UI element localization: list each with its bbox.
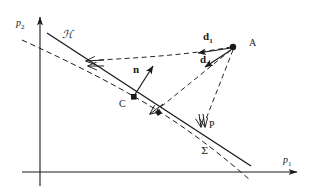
d1-dashed-segment (98, 47, 231, 60)
x-axis-label: p1 (283, 155, 292, 168)
ap-dashed-segment (206, 50, 233, 119)
points-group (131, 44, 236, 116)
d1-vector-label: d1 (203, 31, 213, 45)
y-axis-label: p2 (16, 18, 25, 31)
point-A-label: A (249, 38, 256, 48)
figure-canvas (0, 0, 316, 196)
surface-label: Σ (201, 146, 208, 156)
normal-vector-label: n (133, 64, 139, 75)
point-C-label: C (119, 99, 126, 109)
point-A-marker (230, 44, 236, 50)
d2-vector-label: d2 (200, 54, 210, 68)
point-C-marker (131, 94, 137, 100)
p-arrowhead-line (203, 114, 205, 127)
point-P-label: P (209, 120, 215, 130)
p-arrowhead-line-2 (199, 114, 201, 127)
surface-curve (22, 40, 250, 180)
point-tangency-marker (155, 109, 162, 116)
hyperplane-line (47, 33, 251, 166)
geometry-figure: p2 p1 ℋ Σ A C P n d1 d2 (0, 0, 316, 196)
d2-dashed-segment (157, 50, 231, 110)
hyperplane-label: ℋ (62, 29, 73, 40)
